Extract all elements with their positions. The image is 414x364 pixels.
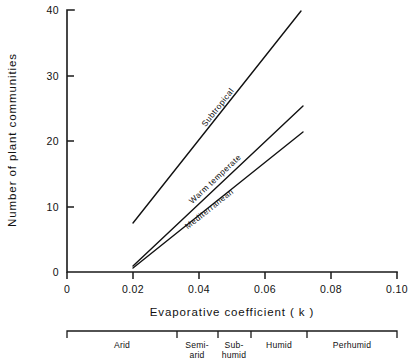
zone-label-humid: Humid	[266, 340, 292, 350]
zone-label-semiarid-line1: Semi-	[185, 340, 208, 350]
zone-label-perhumid: Perhumid	[333, 340, 371, 350]
y-tick-label-10: 10	[47, 201, 59, 213]
zone-label-subhumid-line1: Sub-	[225, 340, 244, 350]
y-axis-title: Number of plant communities	[6, 53, 18, 227]
zone-label-semiarid-line2: arid	[189, 350, 204, 360]
chart-figure: 40 30 20 10 0 0 0.02 0.04 0.06 0.08 0.10…	[0, 0, 414, 364]
series-line-warm-temperate	[133, 106, 303, 266]
series-line-subtropical	[133, 11, 301, 223]
y-tick-label-40: 40	[47, 4, 59, 16]
y-tick-label-0: 0	[53, 266, 59, 278]
x-axis-title: Evaporative coefficient ( k )	[150, 306, 315, 318]
x-tick-label-010: 0.10	[386, 283, 408, 295]
y-tick-label-30: 30	[47, 70, 59, 82]
x-tick-label-004: 0.04	[188, 283, 210, 295]
climate-zone-bracket	[67, 331, 397, 338]
chart-axes	[67, 10, 397, 272]
series-label-subtropical: Subtropical	[200, 86, 236, 128]
x-tick-label-0: 0	[64, 283, 70, 295]
y-tick-label-20: 20	[47, 135, 59, 147]
plant-communities-chart: 40 30 20 10 0 0 0.02 0.04 0.06 0.08 0.10…	[0, 0, 414, 364]
x-tick-label-006: 0.06	[254, 283, 276, 295]
zone-label-arid: Arid	[114, 340, 130, 350]
zone-label-subhumid-line2: humid	[222, 350, 246, 360]
x-tick-label-002: 0.02	[122, 283, 144, 295]
x-tick-label-008: 0.08	[320, 283, 342, 295]
